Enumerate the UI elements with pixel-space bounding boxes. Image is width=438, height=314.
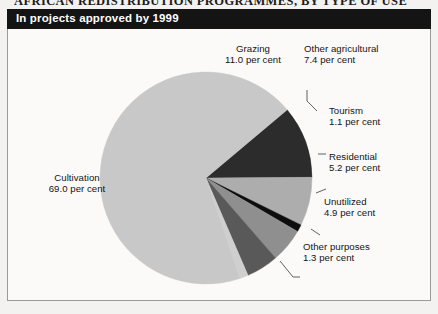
label-other-agricultural: Other agricultural 7.4 per cent [304,43,428,66]
chart-title: In projects approved by 1999 [16,12,179,24]
label-tourism: Tourism 1.1 per cent [329,105,429,128]
label-grazing-value: 11.0 per cent [205,54,301,65]
label-residential-value: 5.2 per cent [329,162,429,173]
pie-slice-group [100,72,312,284]
label-other-agricultural-value: 7.4 per cent [304,54,428,65]
label-other-agricultural-name: Other agricultural [304,43,428,54]
label-residential-name: Residential [329,151,429,162]
label-grazing: Grazing 11.0 per cent [205,43,301,66]
label-other-purposes-value: 1.3 per cent [303,252,427,263]
label-cultivation: Cultivation 69.0 per cent [27,172,127,195]
label-residential: Residential 5.2 per cent [329,151,429,174]
label-cultivation-value: 69.0 per cent [27,183,127,194]
label-unutilized-value: 4.9 per cent [324,207,424,218]
label-unutilized: Unutilized 4.9 per cent [324,196,424,219]
label-grazing-name: Grazing [205,43,301,54]
leader-line-other-agricultural [307,90,317,111]
label-unutilized-name: Unutilized [324,196,424,207]
label-tourism-value: 1.1 per cent [329,116,429,127]
chart-title-bar: In projects approved by 1999 [7,9,431,29]
kicker-headline: AFRICAN REDISTRIBUTION PROGRAMMES, BY TY… [14,0,434,7]
label-cultivation-name: Cultivation [27,172,127,183]
figure-root: AFRICAN REDISTRIBUTION PROGRAMMES, BY TY… [0,0,438,314]
label-other-purposes: Other purposes 1.3 per cent [303,241,427,264]
label-tourism-name: Tourism [329,105,429,116]
leader-line-unutilized [311,229,320,235]
chart-panel: Grazing 11.0 per cent Other agricultural… [7,29,431,301]
leader-line-residential [316,189,326,193]
label-other-purposes-name: Other purposes [303,241,427,252]
leader-line-other-purposes [280,261,300,277]
